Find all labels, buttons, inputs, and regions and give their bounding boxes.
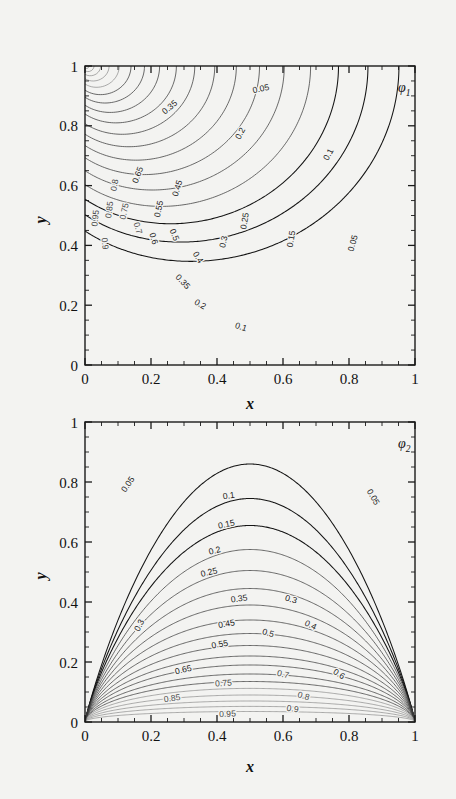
x-tick-label: 0.6	[274, 728, 293, 744]
contour-line	[85, 695, 415, 722]
contour-line	[85, 571, 415, 723]
contour-line	[85, 634, 415, 723]
x-tick-label: 0	[81, 728, 89, 744]
contour-line	[85, 66, 119, 87]
y-axis-title: y	[32, 216, 50, 226]
contour-label: 0.3	[284, 593, 298, 606]
y-tick-label: 0.4	[59, 238, 78, 254]
y-tick-label: 1	[71, 59, 79, 75]
contour-label: 0.95	[219, 708, 236, 719]
x-tick-label: 0.4	[208, 728, 227, 744]
contour-line	[85, 682, 415, 723]
contour-line	[85, 688, 415, 722]
plot-frame	[85, 422, 415, 722]
contour-label: 0.35	[160, 98, 179, 117]
contour-label: 0.05	[346, 233, 360, 252]
plot-phi2: 00.20.40.60.8100.20.40.60.81 0.050.050.1…	[0, 400, 456, 780]
contour-label: 0.35	[174, 272, 193, 291]
contour-label: 0.05	[365, 487, 382, 507]
x-tick-label: 0	[81, 371, 89, 387]
panel-label-subscript: 2	[406, 444, 411, 454]
contour-label: 0.6	[331, 666, 347, 681]
contour-label: 0.2	[208, 544, 222, 557]
y-tick-label: 0.6	[59, 178, 78, 194]
panel-label-phi2: φ2	[398, 436, 411, 454]
contour-label: 0.35	[230, 592, 248, 604]
contour-lines-phi2	[85, 464, 415, 722]
y-tick-label: 0.8	[59, 475, 78, 491]
contour-line	[85, 464, 415, 722]
y-tick-label: 0.2	[59, 655, 78, 671]
x-tick-label: 0.2	[142, 728, 161, 744]
contour-label: 0.7	[276, 668, 290, 681]
contour-label: 0.3	[217, 235, 229, 249]
contour-label: 0.4	[303, 618, 318, 632]
contour-label: 0.85	[103, 201, 115, 219]
contour-label: 0.95	[89, 209, 101, 227]
contour-line	[85, 620, 415, 722]
x-tick-label: 0.4	[208, 371, 227, 387]
axis-tick-labels: 00.20.40.60.8100.20.40.60.81	[59, 415, 419, 745]
contour-label: 0.9	[100, 237, 111, 250]
axis-ticks	[85, 422, 415, 722]
contour-label: 0.3	[132, 617, 147, 632]
y-tick-label: 0.8	[59, 118, 78, 134]
x-tick-label: 0.2	[142, 371, 161, 387]
contour-label: 0.1	[222, 490, 235, 502]
panel-label-phi1: φ1	[398, 80, 411, 98]
y-tick-label: 0.6	[59, 535, 78, 551]
contour-label: 0.8	[108, 178, 120, 192]
plot-phi1: 00.20.40.60.8100.20.40.60.81 0.050.050.1…	[0, 40, 456, 390]
contour-line	[85, 550, 415, 723]
y-tick-label: 0	[71, 358, 79, 374]
contour-label: 0.15	[217, 517, 236, 530]
contour-label: 0.75	[215, 677, 233, 688]
contour-label: 0.5	[261, 626, 275, 639]
contour-label: 0.6	[147, 231, 160, 246]
contour-label: 0.25	[238, 212, 251, 230]
panel-phi1: 00.20.40.60.8100.20.40.60.81 0.050.050.1…	[0, 40, 456, 390]
x-tick-label: 1	[411, 371, 419, 387]
contour-label: 0.5	[168, 227, 182, 242]
x-axis-title: x	[245, 758, 254, 775]
contour-label: 0.8	[297, 689, 311, 702]
x-tick-label: 1	[411, 728, 419, 744]
contour-labels: 0.050.050.10.10.150.20.20.250.30.350.350…	[89, 82, 360, 334]
contour-label: 0.1	[234, 320, 249, 333]
contour-label: 0.85	[163, 692, 181, 704]
contour-label: 0.45	[170, 179, 185, 198]
y-tick-label: 0.2	[59, 298, 78, 314]
contour-line	[85, 66, 215, 147]
panel-label-subscript: 1	[406, 88, 411, 98]
contour-lines-phi1	[85, 66, 399, 261]
y-axis-title: y	[32, 572, 50, 582]
x-tick-label: 0.6	[274, 371, 293, 387]
contour-label: 0.15	[285, 230, 298, 248]
contour-figure: 00.20.40.60.8100.20.40.60.81 0.050.050.1…	[0, 0, 456, 799]
contour-labels: 0.050.050.10.150.20.250.30.30.350.40.450…	[119, 474, 382, 719]
contour-line	[85, 589, 415, 723]
panel-phi2: 00.20.40.60.8100.20.40.60.81 0.050.050.1…	[0, 400, 456, 780]
contour-line	[85, 656, 415, 722]
contour-label: 0.25	[200, 565, 219, 579]
contour-label: 0.05	[252, 82, 271, 95]
contour-label: 0.55	[152, 199, 165, 218]
contour-label: 0.45	[217, 617, 235, 630]
contour-line	[85, 66, 94, 72]
contour-label: 0.75	[117, 202, 130, 221]
contour-label: 0.05	[119, 474, 137, 494]
x-tick-label: 0.8	[340, 371, 359, 387]
contour-label: 0.4	[191, 250, 206, 266]
contour-label: 0.2	[193, 297, 209, 312]
contour-label: 0.2	[233, 126, 248, 141]
contour-label: 0.1	[321, 147, 336, 162]
contour-label: 0.7	[132, 221, 145, 235]
contour-line	[85, 66, 339, 224]
contour-line	[85, 66, 101, 76]
contour-line	[85, 66, 144, 103]
contour-label: 0.55	[211, 638, 229, 651]
y-tick-label: 0.4	[59, 595, 78, 611]
y-tick-label: 0	[71, 715, 79, 731]
contour-line	[85, 66, 160, 112]
contour-line	[85, 665, 415, 722]
